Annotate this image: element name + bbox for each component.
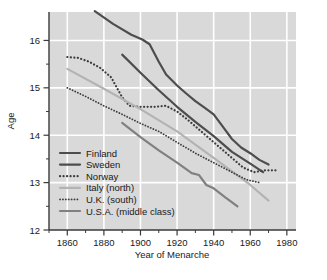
x-tick-label: 1920 [167, 237, 188, 248]
x-tick-label: 1960 [240, 237, 261, 248]
y-tick-label: 15 [29, 82, 40, 93]
y-tick-label: 13 [29, 177, 40, 188]
x-tick-label: 1860 [57, 237, 78, 248]
x-tick-label: 1900 [130, 237, 151, 248]
legend-label-norway: Norway [86, 171, 118, 182]
y-axis-title: Age [5, 113, 16, 130]
y-tick-label: 12 [29, 225, 40, 236]
x-tick-label: 1880 [93, 237, 114, 248]
x-tick-label: 1980 [276, 237, 297, 248]
legend-label-sweden: Sweden [86, 159, 120, 170]
menarche-age-line-chart: 1860188019001920194019601980 1213141516 … [0, 0, 327, 280]
x-tick-label: 1940 [203, 237, 224, 248]
y-tick-label: 14 [29, 130, 40, 141]
legend-label-u-s-a-middle-class: U.S.A. (middle class) [86, 206, 175, 217]
y-tick-label: 16 [29, 35, 40, 46]
legend-label-italy-north: Italy (north) [86, 182, 134, 193]
legend-label-u-k-south: U.K. (south) [86, 194, 137, 205]
legend-label-finland: Finland [86, 148, 117, 159]
x-axis-title: Year of Menarche [135, 249, 210, 260]
